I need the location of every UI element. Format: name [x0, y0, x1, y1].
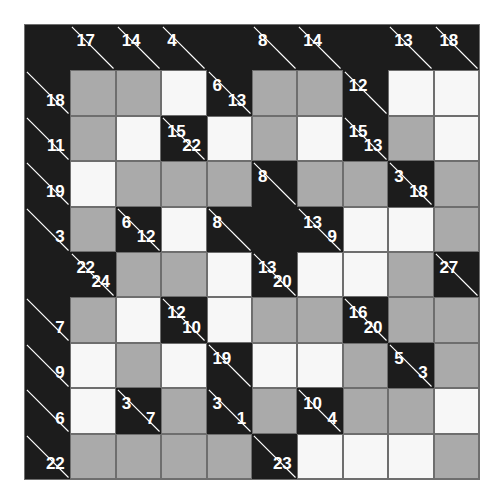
open-cell-gray[interactable]: [388, 252, 433, 297]
open-cell-white[interactable]: [207, 252, 252, 297]
open-cell-gray[interactable]: [70, 207, 115, 252]
open-cell-gray[interactable]: [70, 116, 115, 161]
open-cell-gray[interactable]: [161, 434, 206, 479]
clue-across-value: 3: [418, 364, 427, 381]
open-cell-gray[interactable]: [343, 388, 388, 433]
open-cell-gray[interactable]: [434, 297, 479, 342]
open-cell-gray[interactable]: [434, 434, 479, 479]
open-cell-gray[interactable]: [207, 434, 252, 479]
clue-cell: 73: [116, 388, 161, 433]
open-cell-white[interactable]: [161, 70, 206, 115]
clue-cell: 126: [116, 207, 161, 252]
open-cell-gray[interactable]: [252, 70, 297, 115]
clue-cell: 27: [434, 252, 479, 297]
clue-down-value: 13: [258, 259, 276, 276]
open-cell-gray[interactable]: [297, 297, 342, 342]
clue-down-value: 13: [394, 32, 412, 49]
open-cell-gray[interactable]: [297, 70, 342, 115]
clue-across-value: 1: [237, 410, 246, 427]
clue-cell: 6: [25, 388, 70, 433]
block-cell: [25, 25, 70, 70]
clue-cell: 913: [297, 207, 342, 252]
clue-across-value: 23: [273, 455, 291, 472]
open-cell-gray[interactable]: [434, 161, 479, 206]
open-cell-gray[interactable]: [116, 252, 161, 297]
open-cell-white[interactable]: [388, 434, 433, 479]
open-cell-gray[interactable]: [252, 116, 297, 161]
open-cell-gray[interactable]: [388, 297, 433, 342]
open-cell-white[interactable]: [297, 252, 342, 297]
open-cell-gray[interactable]: [388, 116, 433, 161]
clue-cell: 1012: [161, 297, 206, 342]
clue-cell: 2013: [252, 252, 297, 297]
open-cell-gray[interactable]: [116, 161, 161, 206]
open-cell-gray[interactable]: [297, 161, 342, 206]
open-cell-white[interactable]: [297, 116, 342, 161]
clue-down-value: 12: [349, 77, 367, 94]
open-cell-gray[interactable]: [116, 343, 161, 388]
clue-cell: 19: [207, 343, 252, 388]
open-cell-white[interactable]: [343, 207, 388, 252]
open-cell-white[interactable]: [116, 116, 161, 161]
open-cell-gray[interactable]: [70, 297, 115, 342]
open-cell-white[interactable]: [297, 343, 342, 388]
open-cell-white[interactable]: [434, 388, 479, 433]
clue-across-value: 13: [228, 92, 246, 109]
open-cell-gray[interactable]: [116, 434, 161, 479]
clue-down-value: 15: [167, 123, 185, 140]
open-cell-gray[interactable]: [343, 343, 388, 388]
clue-down-value: 13: [303, 214, 321, 231]
clue-across-value: 19: [46, 183, 64, 200]
open-cell-white[interactable]: [343, 252, 388, 297]
open-cell-white[interactable]: [297, 434, 342, 479]
open-cell-white[interactable]: [116, 297, 161, 342]
clue-cell: 18: [434, 25, 479, 70]
open-cell-gray[interactable]: [252, 388, 297, 433]
open-cell-gray[interactable]: [207, 161, 252, 206]
clue-across-value: 9: [328, 228, 337, 245]
clue-down-value: 27: [440, 259, 458, 276]
clue-down-value: 17: [76, 32, 94, 49]
open-cell-gray[interactable]: [434, 207, 479, 252]
open-cell-gray[interactable]: [116, 70, 161, 115]
clue-cell: 2215: [161, 116, 206, 161]
clue-across-value: 22: [46, 455, 64, 472]
open-cell-gray[interactable]: [161, 161, 206, 206]
open-cell-gray[interactable]: [70, 434, 115, 479]
clue-down-value: 5: [394, 350, 403, 367]
open-cell-white[interactable]: [70, 343, 115, 388]
clue-down-value: 3: [122, 395, 131, 412]
open-cell-gray[interactable]: [434, 343, 479, 388]
open-cell-white[interactable]: [343, 434, 388, 479]
open-cell-gray[interactable]: [161, 252, 206, 297]
open-cell-white[interactable]: [70, 388, 115, 433]
open-cell-white[interactable]: [207, 297, 252, 342]
clue-cell: 1315: [343, 116, 388, 161]
open-cell-gray[interactable]: [70, 70, 115, 115]
clue-cell: 8: [252, 25, 297, 70]
clue-cell: 13: [207, 388, 252, 433]
open-cell-gray[interactable]: [252, 297, 297, 342]
open-cell-white[interactable]: [434, 70, 479, 115]
open-cell-white[interactable]: [388, 207, 433, 252]
open-cell-white[interactable]: [388, 70, 433, 115]
clue-across-value: 6: [55, 410, 64, 427]
clue-across-value: 18: [46, 92, 64, 109]
clue-cell: 19: [25, 161, 70, 206]
clue-down-value: 6: [213, 77, 222, 94]
clue-across-value: 4: [328, 410, 337, 427]
open-cell-white[interactable]: [70, 161, 115, 206]
clue-down-value: 22: [76, 259, 94, 276]
kakuro-grid[interactable]: 1714481413181813612112215131519818331268…: [24, 24, 480, 480]
clue-cell: 410: [297, 388, 342, 433]
open-cell-white[interactable]: [207, 116, 252, 161]
open-cell-white[interactable]: [252, 343, 297, 388]
clue-cell: 2016: [343, 297, 388, 342]
open-cell-gray[interactable]: [388, 388, 433, 433]
open-cell-white[interactable]: [161, 343, 206, 388]
clue-across-value: 3: [55, 228, 64, 245]
open-cell-gray[interactable]: [161, 388, 206, 433]
open-cell-white[interactable]: [161, 207, 206, 252]
open-cell-gray[interactable]: [343, 161, 388, 206]
open-cell-white[interactable]: [434, 116, 479, 161]
